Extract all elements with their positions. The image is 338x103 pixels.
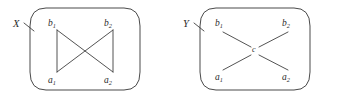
- vertex-label-c: c: [252, 45, 256, 54]
- vertex-label-a1: a1: [48, 75, 56, 86]
- edge-c-a1: [223, 55, 251, 70]
- vertex-label-b1: b1: [48, 18, 56, 29]
- edge-c-a2: [259, 55, 288, 70]
- edge-c-b1: [223, 32, 251, 47]
- vertex-label-b1: b1: [215, 18, 223, 29]
- panel-x: X b1 b2 a1 a2: [12, 8, 140, 90]
- set-leader-line-x: [24, 23, 34, 31]
- vertex-label-a2: a2: [282, 72, 291, 83]
- set-boundary-x: [30, 8, 140, 90]
- set-label-y: Y: [183, 18, 190, 29]
- figure-canvas: X b1 b2 a1 a2 Y: [0, 0, 338, 103]
- panel-y: Y c b1 b2 a1 a2: [183, 8, 310, 90]
- vertex-label-a2: a2: [104, 75, 113, 86]
- set-label-x: X: [12, 18, 20, 29]
- vertex-label-group-x: b1 b2 a1 a2: [48, 18, 113, 86]
- edge-c-b2: [259, 32, 288, 47]
- vertex-label-a1: a1: [215, 72, 223, 83]
- vertex-label-b2: b2: [282, 18, 291, 29]
- edge-group-x: [57, 30, 113, 72]
- vertex-label-b2: b2: [104, 18, 113, 29]
- set-leader-line-y: [194, 23, 204, 31]
- figure-root: X b1 b2 a1 a2 Y: [0, 0, 338, 103]
